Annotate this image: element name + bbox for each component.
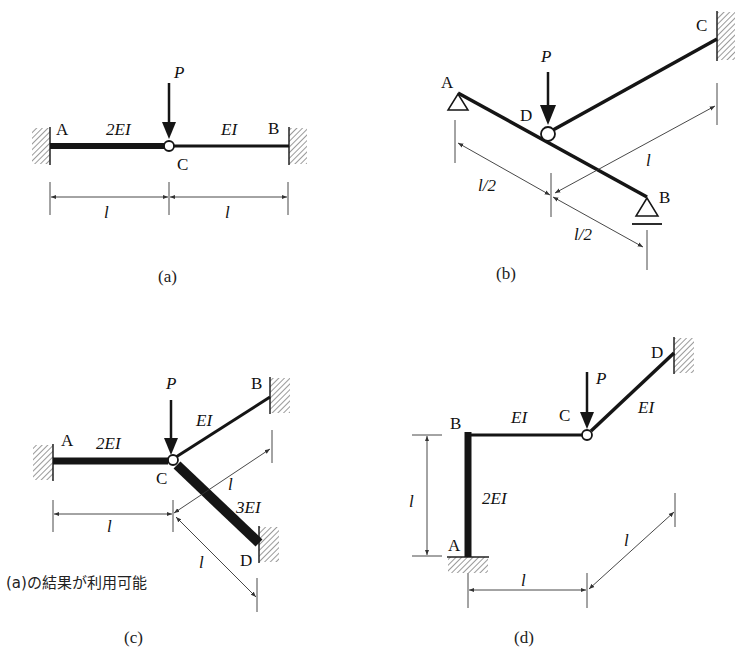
node-label-b: B xyxy=(659,188,670,207)
node-label-b: B xyxy=(268,119,279,138)
fixed-support-a-left xyxy=(32,128,50,164)
dimension-label-cd: l xyxy=(624,531,629,550)
figure-caption-a: (a) xyxy=(158,267,177,286)
hinge-c xyxy=(164,141,174,151)
note-text: (a)の結果が利用可能 xyxy=(6,574,147,592)
node-label-b: B xyxy=(251,374,262,393)
node-label-a: A xyxy=(56,120,69,139)
stiffness-label-cb: EI xyxy=(220,120,238,139)
load-arrow-head-icon xyxy=(162,122,176,139)
load-arrow-head-icon xyxy=(540,105,556,125)
figure-d: P B EI C EI D 2EI A l l l (d) xyxy=(409,337,694,647)
roller-support-b-icon xyxy=(636,198,658,216)
load-arrow-head-icon xyxy=(580,412,594,429)
fixed-support-d xyxy=(259,527,279,562)
dimension-lines xyxy=(50,182,288,215)
figure-caption-d: (d) xyxy=(514,628,534,647)
stiffness-label-bc: EI xyxy=(510,408,528,427)
node-label-a: A xyxy=(441,73,454,92)
dimension-label-cb: l xyxy=(225,203,230,222)
figure-a: P A 2EI EI B C l l (a) xyxy=(32,63,307,286)
fixed-support-c xyxy=(717,12,735,60)
dimension-label-ab: l xyxy=(409,492,414,511)
fixed-support-a xyxy=(33,445,53,480)
dimension-label-ad: l/2 xyxy=(478,176,496,195)
stiffness-label-cd: EI xyxy=(637,398,655,417)
fixed-support-b-right xyxy=(289,128,307,164)
dimension-label-cb: l xyxy=(228,475,233,494)
member-cd-ei xyxy=(591,353,674,431)
figure-caption-b: (b) xyxy=(496,264,516,283)
node-label-c: C xyxy=(177,155,188,174)
node-label-d: D xyxy=(240,551,252,570)
hinge-d xyxy=(541,127,555,141)
fixed-support-d xyxy=(674,338,694,373)
load-label-p: P xyxy=(165,374,176,393)
dimension-label-db: l/2 xyxy=(574,225,592,244)
node-label-c: C xyxy=(156,469,167,488)
dimension-label-ac: l xyxy=(107,517,112,536)
figure-caption-c: (c) xyxy=(124,628,143,647)
figure-b: P A D C B l/2 l/2 l (b) xyxy=(441,11,735,283)
dimension-label-dc: l xyxy=(646,151,651,170)
member-dc xyxy=(553,39,717,130)
load-label-p: P xyxy=(595,369,606,388)
figure-c: P A 2EI B EI C 3EI D l l l (a)の結果が利用可能 (… xyxy=(6,374,290,647)
dimension-label-cd: l xyxy=(199,553,204,572)
dimension-lines xyxy=(412,435,675,608)
node-label-c: C xyxy=(696,16,707,35)
node-label-b: B xyxy=(450,414,461,433)
dimension-label-ac: l xyxy=(104,203,109,222)
hinge-c xyxy=(168,455,178,465)
node-label-a: A xyxy=(448,536,461,555)
load-arrow-head-icon xyxy=(164,438,178,455)
stiffness-label-cd: 3EI xyxy=(235,498,262,517)
load-label-p: P xyxy=(173,63,184,82)
dimension-label-bc: l xyxy=(521,571,526,590)
structural-diagrams: P A 2EI EI B C l l (a) P A D C B xyxy=(0,0,743,670)
hinge-c xyxy=(582,430,592,440)
stiffness-label-cb: EI xyxy=(195,411,213,430)
node-label-d: D xyxy=(651,343,663,362)
stiffness-label-ab: 2EI xyxy=(482,489,508,508)
fixed-support-b xyxy=(270,378,290,413)
stiffness-label-ac: 2EI xyxy=(106,120,132,139)
fixed-support-a xyxy=(448,557,488,573)
node-label-a: A xyxy=(61,431,74,450)
load-label-p: P xyxy=(540,47,551,66)
node-label-c: C xyxy=(559,406,570,425)
stiffness-label-ac: 2EI xyxy=(96,434,122,453)
node-label-d: D xyxy=(520,106,532,125)
member-cb-ei xyxy=(176,397,270,457)
